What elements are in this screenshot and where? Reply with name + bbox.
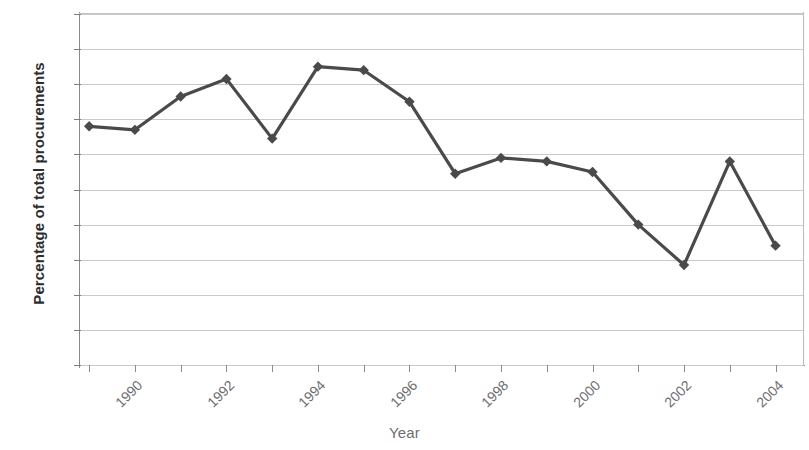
x-axis-tick-label: 2004	[753, 377, 786, 410]
x-axis-tick	[638, 365, 639, 372]
data-point-marker	[496, 153, 506, 163]
plot-area: 4543413937353331292725 19901992199419961…	[80, 14, 803, 365]
x-axis-tick	[593, 365, 594, 372]
plot-right-border	[803, 12, 804, 366]
x-axis-tick-label: 1996	[387, 377, 420, 410]
x-axis-tick	[226, 365, 227, 372]
x-axis-tick	[135, 365, 136, 372]
x-axis-tick-label: 1994	[295, 377, 328, 410]
x-axis-tick	[89, 365, 90, 372]
y-axis-tick	[74, 365, 81, 366]
x-axis-tick-label: 1990	[112, 377, 145, 410]
x-axis-tick	[455, 365, 456, 372]
x-axis-tick	[684, 365, 685, 372]
x-axis-tick	[364, 365, 365, 372]
x-axis-tick-label: 2000	[570, 377, 603, 410]
x-axis-tick	[272, 365, 273, 372]
x-axis-tick-label: 1992	[204, 377, 237, 410]
x-axis-tick-label: 2002	[661, 377, 694, 410]
x-axis-tick	[181, 365, 182, 372]
x-axis-tick	[730, 365, 731, 372]
x-axis-tick	[501, 365, 502, 372]
x-axis-tick	[776, 365, 777, 372]
data-series	[80, 14, 803, 365]
data-point-marker	[542, 156, 552, 166]
series-line	[89, 67, 775, 265]
x-axis-tick-label: 1998	[478, 377, 511, 410]
data-point-marker	[84, 121, 94, 131]
x-axis-tick	[318, 365, 319, 372]
y-axis-title: Percentage of total procurements	[30, 34, 47, 334]
line-chart: Percentage of total procurements Year 45…	[0, 0, 809, 450]
x-axis-tick	[409, 365, 410, 372]
x-axis-title: Year	[0, 424, 809, 441]
gridline	[80, 365, 803, 366]
x-axis-tick	[547, 365, 548, 372]
